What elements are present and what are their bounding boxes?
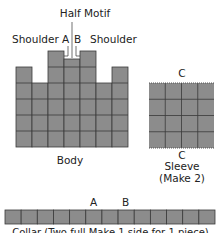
mark-b-top-label: B xyxy=(74,34,81,45)
sleeve-note-label: (Make 2) xyxy=(148,173,216,184)
collar-cell xyxy=(118,210,134,224)
body-column xyxy=(16,67,32,147)
collar-cell xyxy=(199,210,215,224)
collar-cell xyxy=(70,210,86,224)
sleeve-c-bottom-label: C xyxy=(170,150,194,161)
collar-cell xyxy=(167,210,183,224)
sleeve-c-top-label: C xyxy=(170,68,194,79)
collar-caption: Collar (Two full Make 1 side for 1 piece… xyxy=(0,228,221,233)
collar-b-label: B xyxy=(122,197,129,208)
collar-cell xyxy=(5,210,21,224)
collar-cell xyxy=(134,210,150,224)
shoulder-left-label: Shoulder xyxy=(12,34,59,45)
collar-cell xyxy=(86,210,102,224)
collar-a-label: A xyxy=(90,197,97,208)
shoulder-right-label: Shoulder xyxy=(90,34,137,45)
collar-cell xyxy=(53,210,69,224)
mark-a-top-label: A xyxy=(62,34,69,45)
mark-a-bracket xyxy=(64,46,68,56)
half-motif-label: Half Motif xyxy=(55,8,115,19)
collar-cell xyxy=(21,210,37,224)
collar-cell xyxy=(102,210,118,224)
collar-cell xyxy=(150,210,166,224)
body-column xyxy=(112,67,128,147)
collar-cell xyxy=(37,210,53,224)
body-column xyxy=(64,59,80,147)
sleeve-label: Sleeve xyxy=(152,161,212,172)
collar-cell xyxy=(183,210,199,224)
body-label: Body xyxy=(50,155,90,166)
mark-b-bracket xyxy=(76,46,80,56)
